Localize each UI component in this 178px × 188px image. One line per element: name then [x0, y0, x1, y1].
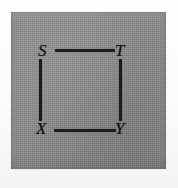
graph-edge-s-t: [55, 49, 115, 52]
figure-page: S T X Y: [0, 0, 178, 188]
graph-vertex-label-x: X: [36, 120, 46, 137]
graph-edge-t-y: [119, 59, 122, 121]
figure-panel: S T X Y: [11, 12, 166, 169]
graph-edge-x-y: [54, 129, 116, 132]
graph-diagram: S T X Y: [11, 12, 166, 169]
graph-vertex-label-s: S: [38, 42, 47, 59]
graph-vertex-label-y: Y: [115, 120, 124, 137]
graph-vertex-label-t: T: [115, 42, 124, 59]
graph-edge-s-x: [39, 59, 42, 121]
